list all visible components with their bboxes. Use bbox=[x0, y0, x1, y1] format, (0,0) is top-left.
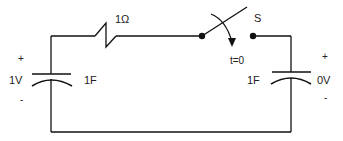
left-capacitor-plus: + bbox=[18, 54, 24, 64]
switch-blade bbox=[202, 7, 247, 36]
circuit-diagram bbox=[0, 0, 343, 141]
right-capacitor-plus: + bbox=[322, 52, 328, 62]
left-capacitor-minus: - bbox=[20, 95, 23, 105]
right-capacitor-label: 1F bbox=[247, 75, 260, 86]
switch-timing-label: t=0 bbox=[230, 56, 244, 66]
switch-label: S bbox=[254, 13, 261, 24]
left-capacitor-voltage: 1V bbox=[9, 75, 22, 86]
left-capacitor-label: 1F bbox=[84, 75, 97, 86]
left-capacitor-plate-curved bbox=[32, 80, 72, 86]
resistor-icon bbox=[95, 23, 116, 47]
resistor-label: 1Ω bbox=[115, 14, 129, 25]
right-capacitor-voltage: 0V bbox=[317, 75, 330, 86]
right-capacitor-minus: - bbox=[324, 93, 327, 103]
arrow-head-icon bbox=[228, 38, 236, 47]
